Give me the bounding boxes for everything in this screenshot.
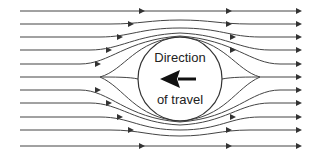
direction-arrow-icon [160,70,196,88]
streamlines [0,0,317,158]
flow-diagram: Direction of travel [0,0,317,158]
label-of-travel: of travel [135,92,225,107]
label-direction: Direction [135,50,225,65]
